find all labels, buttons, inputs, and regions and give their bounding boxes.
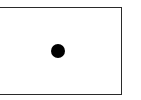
diagram-canvas (0, 0, 141, 100)
dot-shape (51, 44, 65, 58)
